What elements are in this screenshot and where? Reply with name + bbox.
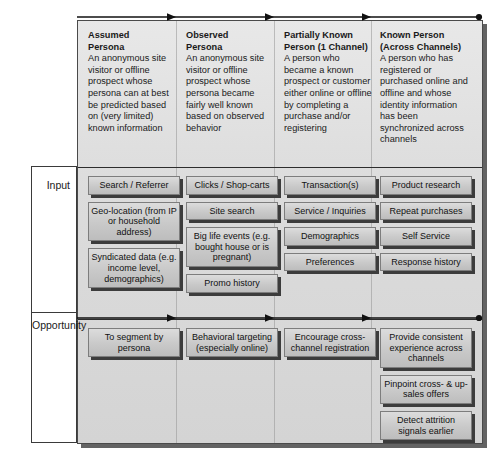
input-row-divider (78, 167, 482, 168)
opportunity-item[interactable]: Encourage cross-channel registration (284, 328, 376, 357)
arrowhead-2 (265, 314, 274, 322)
column-headers: Assumed Persona An anonymous site visito… (78, 21, 482, 167)
input-cells-observed-persona: Clicks / Shop-carts Site search Big life… (186, 176, 278, 300)
column-description: A person who became a known prospect or … (284, 53, 372, 134)
column-header-known-person: Known Person (Across Channels) A person … (380, 30, 468, 146)
opportunity-item[interactable]: Behavioral targeting (especially online) (186, 328, 278, 357)
input-item[interactable]: Service / Inquiries (284, 202, 376, 221)
column-title-line1: Partially Known (284, 30, 372, 42)
input-item[interactable]: Product research (380, 176, 472, 195)
column-title-line2: Persona (88, 42, 176, 54)
input-item[interactable]: Syndicated data (e.g. income level, demo… (88, 248, 180, 288)
input-item[interactable]: Promo history (186, 274, 278, 293)
opportunity-item[interactable]: Pinpoint cross- & up-sales offers (380, 375, 472, 404)
arrowhead-3 (362, 314, 371, 322)
column-title-line1: Assumed (88, 30, 176, 42)
input-item[interactable]: Demographics (284, 227, 376, 246)
opportunity-cells-partially-known-person: Encourage cross-channel registration (284, 328, 376, 364)
arrowhead-2 (265, 13, 274, 21)
matrix-panel: Assumed Persona An anonymous site visito… (77, 20, 483, 444)
input-item[interactable]: Clicks / Shop-carts (186, 176, 278, 195)
arrowhead-1 (167, 314, 176, 322)
input-item[interactable]: Self Service (380, 227, 472, 246)
input-item[interactable]: Transaction(s) (284, 176, 376, 195)
row-label-opportunity: Opportunity (32, 319, 76, 331)
row-label-divider (32, 312, 76, 313)
column-title-line1: Observed (186, 30, 274, 42)
input-cells-known-person: Product research Repeat purchases Self S… (380, 176, 472, 278)
input-cells-assumed-persona: Search / Referrer Geo-location (from IP … (88, 176, 180, 295)
column-header-observed-persona: Observed Persona An anonymous site visit… (186, 30, 274, 134)
diagram-root: Input Opportunity Assumed Persona An ano… (0, 0, 489, 465)
opportunity-cells-observed-persona: Behavioral targeting (especially online) (186, 328, 278, 364)
progression-arrow-rail-opportunity (77, 313, 483, 323)
column-header-assumed-persona: Assumed Persona An anonymous site visito… (88, 30, 176, 134)
input-item[interactable]: Repeat purchases (380, 202, 472, 221)
input-item[interactable]: Response history (380, 253, 472, 272)
column-title-line2: (Across Channels) (380, 42, 468, 54)
opportunity-cells-known-person: Provide consistent experience across cha… (380, 328, 472, 447)
progression-arrow-rail-top (77, 12, 483, 22)
opportunity-cells-assumed-persona: To segment by persona (88, 328, 180, 364)
column-title-line1: Known Person (380, 30, 468, 42)
column-title-line2: Person (1 Channel) (284, 42, 372, 54)
right-arrow-rail-icon (77, 12, 483, 22)
dot-endpoint-icon (476, 14, 482, 20)
column-description: An anonymous site visitor or offline pro… (186, 53, 274, 134)
arrowhead-1 (167, 13, 176, 21)
opportunity-item[interactable]: Provide consistent experience across cha… (380, 328, 472, 368)
opportunity-item[interactable]: To segment by persona (88, 328, 180, 357)
dot-endpoint-icon (476, 315, 482, 321)
input-item[interactable]: Geo-location (from IP or household addre… (88, 202, 180, 242)
column-title-line2: Persona (186, 42, 274, 54)
arrowhead-3 (362, 13, 371, 21)
input-item[interactable]: Site search (186, 202, 278, 221)
opportunity-item[interactable]: Detect attrition signals earlier (380, 411, 472, 440)
input-item[interactable]: Big life events (e.g. bought house or is… (186, 227, 278, 267)
column-header-partially-known-person: Partially Known Person (1 Channel) A per… (284, 30, 372, 134)
column-description: An anonymous site visitor or offline pro… (88, 53, 176, 134)
input-cells-partially-known-person: Transaction(s) Service / Inquiries Demog… (284, 176, 376, 278)
row-label-column: Input Opportunity (31, 166, 77, 443)
input-item[interactable]: Preferences (284, 253, 376, 272)
row-label-input: Input (32, 179, 76, 191)
column-description: A person who has registered or purchased… (380, 53, 468, 146)
input-item[interactable]: Search / Referrer (88, 176, 180, 195)
right-arrow-rail-icon (77, 313, 483, 323)
